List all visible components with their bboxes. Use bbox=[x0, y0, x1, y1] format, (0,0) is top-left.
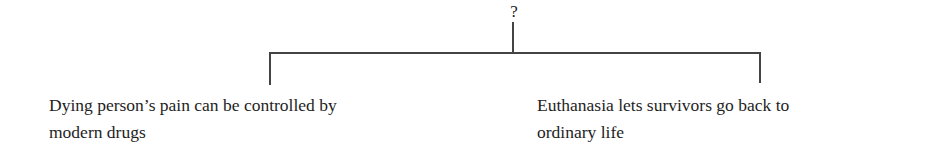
right-child-line-2: ordinary life bbox=[537, 119, 789, 146]
argument-tree-diagram: ? Dying person’s pain can be controlled … bbox=[0, 0, 948, 165]
left-child-line-2: modern drugs bbox=[49, 119, 337, 146]
right-child-node: Euthanasia lets survivors go back to ord… bbox=[537, 92, 789, 146]
root-node-question: ? bbox=[504, 2, 524, 22]
left-branch-line bbox=[269, 52, 271, 85]
left-child-node: Dying person’s pain can be controlled by… bbox=[49, 92, 337, 146]
right-branch-line bbox=[759, 52, 761, 83]
right-child-line-1: Euthanasia lets survivors go back to bbox=[537, 92, 789, 119]
left-child-line-1: Dying person’s pain can be controlled by bbox=[49, 92, 337, 119]
root-stem-line bbox=[512, 22, 514, 53]
horizontal-connector-line bbox=[269, 52, 760, 54]
